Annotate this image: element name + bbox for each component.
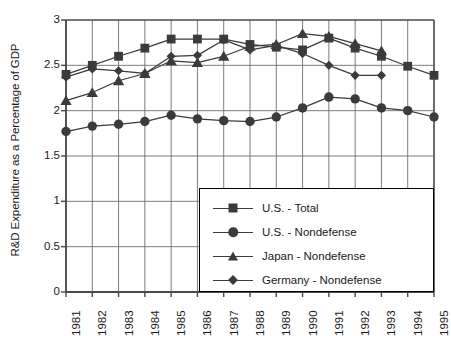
data-point-marker	[403, 106, 412, 115]
legend-label: U.S. - Nondefense	[262, 226, 357, 238]
data-point-marker	[324, 61, 333, 70]
data-point-marker	[324, 92, 333, 101]
legend-label: Germany - Nondefense	[262, 274, 382, 286]
data-point-marker	[272, 112, 281, 121]
data-point-marker	[430, 71, 439, 80]
data-point-marker	[114, 52, 123, 61]
legend-item[interactable]: U.S. - Total	[213, 200, 319, 216]
data-point-marker	[219, 116, 228, 125]
data-point-marker	[140, 44, 149, 53]
data-point-marker	[114, 120, 123, 129]
legend-marker-triangle-icon	[213, 249, 253, 263]
data-point-marker	[377, 71, 386, 80]
data-point-marker	[193, 35, 202, 44]
data-point-marker	[61, 127, 70, 136]
data-point-marker	[193, 114, 202, 123]
data-point-marker	[167, 52, 176, 61]
legend-marker-diamond-icon	[213, 273, 253, 287]
data-point-marker	[166, 111, 175, 120]
data-point-marker	[403, 62, 412, 71]
data-point-marker	[377, 103, 386, 112]
data-point-marker	[351, 71, 360, 80]
data-point-marker	[193, 51, 202, 60]
data-point-marker	[297, 28, 308, 38]
legend-label: Japan - Nondefense	[262, 250, 366, 262]
data-point-marker	[88, 121, 97, 130]
data-point-marker	[140, 117, 149, 126]
data-point-marker	[350, 94, 359, 103]
legend-item[interactable]: Japan - Nondefense	[213, 248, 366, 264]
data-point-marker	[298, 103, 307, 112]
legend-marker-square-icon	[213, 201, 253, 215]
data-point-marker	[218, 51, 229, 61]
data-point-marker	[245, 117, 254, 126]
data-point-marker	[114, 66, 123, 75]
data-point-marker	[60, 95, 71, 105]
legend-marker-circle-icon	[213, 225, 253, 239]
legend-item[interactable]: U.S. - Nondefense	[213, 224, 357, 240]
legend-item[interactable]: Germany - Nondefense	[213, 272, 382, 288]
chart-legend: U.S. - TotalU.S. - NondefenseJapan - Non…	[199, 188, 434, 292]
data-point-marker	[167, 35, 176, 44]
legend-label: U.S. - Total	[262, 202, 319, 214]
data-point-marker	[429, 112, 438, 121]
data-point-marker	[87, 87, 98, 97]
